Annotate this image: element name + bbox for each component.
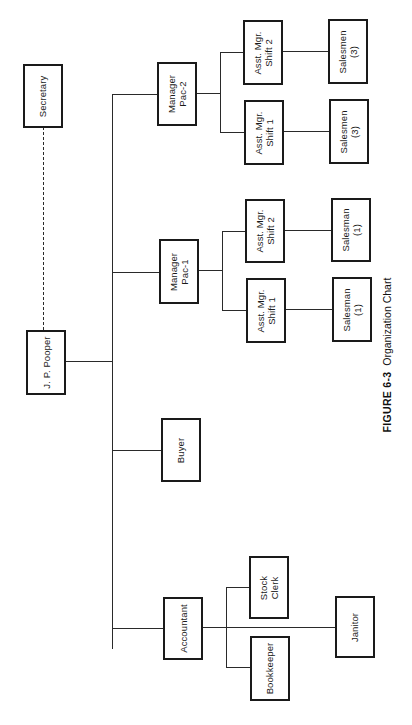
node-buyer: Buyer (161, 418, 201, 482)
accountant-to-janitor (202, 627, 335, 628)
node-label: Salesman (1) (341, 288, 363, 331)
pac1-shift2-to-salesman (284, 230, 331, 231)
node-bookkeeper: Bookkeeper (250, 636, 290, 701)
stock-clerk-branch (226, 587, 249, 588)
figure-number: FIGURE 6-3 (381, 372, 393, 433)
pac1-shift1-branch (222, 310, 246, 311)
pac2-connector (196, 93, 221, 94)
pac1-shift1-to-salesman (285, 309, 332, 310)
node-pac2-salesmen-shift2: Salesmen (3) (328, 19, 368, 84)
bookkeeper-branch (226, 667, 250, 668)
node-label: Asst. Mgr. Shift 1 (253, 111, 275, 154)
pac1-vertical (222, 231, 223, 311)
node-pac2-asst-mgr-shift2: Asst. Mgr. Shift 2 (243, 20, 283, 85)
node-label: Stock Clerk (258, 575, 280, 599)
node-label: Salesman (1) (340, 208, 362, 251)
node-label: Manager Pac-1 (168, 252, 190, 290)
node-pac2-asst-mgr-shift1: Asst. Mgr. Shift 1 (244, 100, 284, 165)
pac1-connector (198, 270, 223, 271)
node-pac1-asst-mgr-shift2: Asst. Mgr. Shift 2 (245, 199, 285, 263)
branch-buyer (112, 450, 161, 451)
pac2-vertical (220, 52, 221, 133)
node-label: Asst. Mgr. Shift 2 (254, 209, 276, 252)
pac1-shift2-branch (222, 231, 245, 232)
node-label: J. P. Pooper (41, 336, 52, 388)
node-secretary: Secretary (23, 64, 63, 128)
node-manager-pac1: Manager Pac-1 (159, 239, 199, 304)
ceo-connector (65, 361, 113, 362)
pac2-shift2-branch (220, 52, 243, 53)
node-label: Accountant (178, 604, 189, 653)
node-label: Asst. Mgr. Shift 2 (252, 31, 274, 74)
node-pac2-salesmen-shift1: Salesmen (3) (329, 99, 369, 164)
node-label: Salesmen (3) (338, 110, 360, 153)
pac2-shift1-branch (220, 132, 244, 133)
node-pac1-asst-mgr-shift1: Asst. Mgr. Shift 1 (246, 278, 286, 343)
pac2-shift2-to-salesmen (282, 51, 328, 52)
node-label: Manager Pac-2 (166, 75, 188, 113)
main-trunk (112, 94, 113, 649)
branch-manager-pac1 (112, 272, 159, 273)
node-label: Secretary (38, 75, 49, 117)
node-manager-pac2: Manager Pac-2 (157, 62, 197, 126)
node-label: Salesmen (3) (337, 30, 359, 73)
branch-manager-pac2 (112, 94, 157, 95)
staff-dashed-connector (43, 127, 44, 330)
node-label: Asst. Mgr. Shift 1 (255, 289, 277, 332)
branch-accountant (112, 628, 163, 629)
pac2-shift1-to-salesmen (283, 131, 329, 132)
node-stock-clerk: Stock Clerk (249, 556, 289, 619)
figure-caption: FIGURE 6-3 Organization Chart (381, 278, 393, 433)
node-label: Buyer (175, 437, 186, 462)
figure-title: Organization Chart (381, 278, 393, 366)
node-label: Janitor (350, 612, 361, 641)
accountant-vertical (226, 587, 227, 668)
node-accountant: Accountant (163, 597, 203, 660)
node-label: Bookkeeper (265, 643, 276, 695)
node-pac1-salesman-shift1: Salesman (1) (332, 277, 372, 342)
node-pac1-salesman-shift2: Salesman (1) (331, 198, 371, 262)
node-ceo: J. P. Pooper (26, 330, 66, 395)
node-janitor: Janitor (335, 596, 375, 658)
